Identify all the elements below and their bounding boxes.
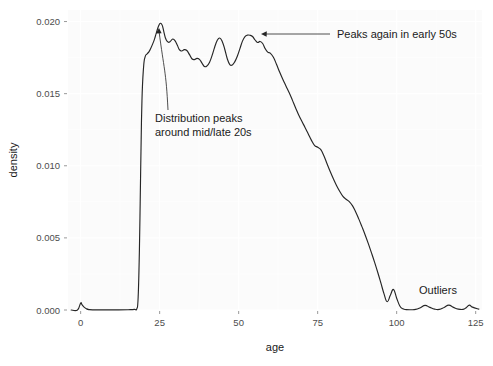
y-axis-title: density bbox=[7, 142, 19, 177]
x-tick-label: 100 bbox=[389, 317, 405, 328]
x-axis-ticks: 0255075100125 bbox=[78, 311, 484, 328]
x-tick-label: 75 bbox=[312, 317, 323, 328]
y-tick-label: 0.000 bbox=[36, 305, 60, 316]
x-axis-title: age bbox=[266, 341, 284, 353]
x-tick-label: 25 bbox=[154, 317, 165, 328]
x-tick-label: 125 bbox=[468, 317, 484, 328]
x-tick-label: 0 bbox=[78, 317, 83, 328]
y-tick-label: 0.005 bbox=[36, 232, 60, 243]
plot-panel-background bbox=[68, 10, 482, 310]
density-plot-figure: 0255075100125 0.0000.0050.0100.0150.020 … bbox=[0, 0, 493, 366]
annotation-outliers: Outliers bbox=[419, 284, 457, 296]
annotation-peak-20s-line1: Distribution peaks bbox=[155, 112, 243, 124]
annotation-peak-50s: Peaks again in early 50s bbox=[337, 28, 457, 40]
annotation-peak-20s-line2: around mid/late 20s bbox=[155, 126, 252, 138]
y-tick-label: 0.020 bbox=[36, 16, 60, 27]
y-tick-label: 0.015 bbox=[36, 88, 60, 99]
y-tick-label: 0.010 bbox=[36, 160, 60, 171]
x-tick-label: 50 bbox=[233, 317, 244, 328]
plot-canvas: 0255075100125 0.0000.0050.0100.0150.020 … bbox=[0, 0, 493, 366]
y-axis-ticks: 0.0000.0050.0100.0150.020 bbox=[36, 16, 67, 315]
